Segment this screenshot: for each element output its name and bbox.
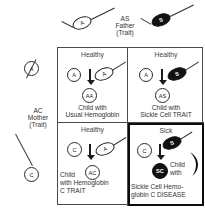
sperm-allele: A: [92, 65, 115, 84]
child-genotype: AA: [86, 93, 93, 99]
arrow-tip: [87, 155, 95, 160]
punnett-grid: Healthy A A AA Child with Usual Hemoglob…: [57, 47, 203, 205]
child-genotype: SC: [156, 168, 164, 174]
sperm-allele: A: [93, 140, 116, 159]
sperm-tail: [185, 62, 199, 71]
caption-line: Child with: [58, 104, 127, 111]
caption-line: Child: [60, 171, 128, 179]
father-gamete-s-allele: S: [149, 11, 172, 30]
arrow-shaft: [89, 69, 91, 80]
quadrant-top-left: Healthy A A AA Child with Usual Hemoglob…: [58, 48, 128, 123]
father-gamete-a-allele: A: [70, 14, 93, 33]
caption-line: C TRAIT: [60, 187, 128, 195]
caption-line: Sickle Cell TRAIT: [128, 111, 204, 118]
caption-line: with Hemoglobin: [60, 179, 128, 187]
quadrant-top-right: Healthy A S AS Child with Sickle Cell TR…: [128, 48, 204, 123]
arrow-tip: [87, 80, 95, 85]
mother-label: AC Mother (Trait): [18, 108, 58, 129]
mother-c-connector: [15, 134, 33, 166]
quadrant-status: Healthy: [128, 51, 204, 58]
child-genotype-circle: AS: [155, 88, 170, 103]
caption-line: Child with: [128, 104, 204, 111]
egg-allele: C: [142, 148, 146, 154]
egg-cell: A: [67, 68, 81, 82]
caption-line: Sickle Cell Hemo-: [131, 183, 205, 191]
sperm-allele: S: [160, 134, 183, 153]
egg-cell: C: [67, 142, 82, 157]
egg-cell: A: [139, 68, 153, 82]
sperm-tail: [112, 62, 126, 71]
mother-trait: (Trait): [18, 122, 58, 129]
child-genotype-circle: SC: [152, 163, 168, 179]
sperm-tail: [170, 5, 194, 17]
sickle-cell-icon: [188, 151, 201, 177]
quadrant-bottom-left: Healthy C A AC Child with Hemoglobin C T…: [58, 123, 128, 206]
quadrant-bottom-right: Sick C S SC Child with: [128, 123, 204, 206]
caption-line: globin C DISEASE: [131, 191, 205, 199]
egg-allele: C: [72, 147, 76, 153]
father-trait: (Trait): [104, 30, 146, 37]
arrow-shaft: [159, 144, 161, 155]
caption-line: Usual Hemoglobin: [58, 111, 127, 118]
child-genotype: AS: [159, 93, 166, 99]
arrow-shaft: [89, 144, 91, 155]
quadrant-caption-bottom: Sickle Cell Hemo- globin C DISEASE: [131, 183, 205, 199]
mother-gamete-c: C: [24, 167, 39, 182]
inheritance-diagram: A S AS Father (Trait) A C AC Mother (Tra…: [0, 0, 205, 208]
quadrant-status: Healthy: [58, 51, 127, 58]
child-genotype-circle: AA: [82, 88, 97, 103]
quadrant-caption: Child with Sickle Cell TRAIT: [128, 104, 204, 119]
arrow-tip: [157, 155, 165, 160]
arrow-tip: [159, 80, 167, 85]
egg-allele: A: [72, 72, 76, 78]
quadrant-status: Healthy: [58, 126, 127, 133]
sperm-tail: [113, 137, 126, 146]
egg-cell: C: [137, 143, 152, 158]
mother-gamete-c-allele: C: [29, 172, 33, 178]
father-label: AS Father (Trait): [104, 16, 146, 37]
arrow-shaft: [161, 69, 163, 80]
sperm-allele: S: [165, 65, 188, 84]
egg-allele: A: [144, 72, 148, 78]
quadrant-caption: Child with Hemoglobin C TRAIT: [60, 171, 128, 195]
quadrant-caption: Child with Usual Hemoglobin: [58, 104, 127, 119]
